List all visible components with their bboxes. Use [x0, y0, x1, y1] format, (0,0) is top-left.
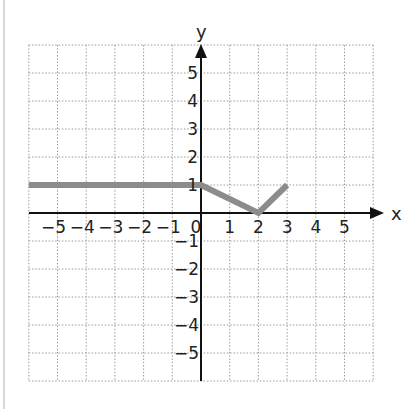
x-tick-label: 3 — [282, 217, 293, 237]
y-tick-label: 5 — [187, 63, 198, 83]
y-tick-label: −2 — [174, 259, 199, 279]
y-tick-label: −4 — [174, 315, 199, 335]
y-axis-arrow-icon — [195, 44, 207, 58]
y-axis-label: y — [196, 21, 207, 42]
function-graph-line — [29, 185, 287, 213]
y-tick-label: −5 — [174, 343, 199, 363]
x-tick-label: −3 — [98, 217, 123, 237]
x-tick-label: 4 — [310, 217, 321, 237]
y-tick-label: 4 — [187, 91, 198, 111]
x-axis-label: x — [391, 203, 402, 224]
x-tick-label: 2 — [253, 217, 264, 237]
y-tick-label: 1 — [187, 175, 198, 195]
coordinate-plane: x y −5−4−3−2−112345054321−1−2−3−4−5 — [0, 0, 412, 409]
x-axis-arrow-icon — [370, 207, 384, 219]
y-tick-label: 3 — [187, 119, 198, 139]
x-tick-label: −5 — [41, 217, 66, 237]
x-tick-label: −4 — [70, 217, 95, 237]
y-tick-label: −1 — [174, 231, 199, 251]
y-tick-label: 2 — [187, 147, 198, 167]
x-tick-label: 1 — [224, 217, 235, 237]
x-tick-label: 5 — [339, 217, 350, 237]
y-tick-label: −3 — [174, 287, 199, 307]
x-tick-label: −2 — [127, 217, 152, 237]
